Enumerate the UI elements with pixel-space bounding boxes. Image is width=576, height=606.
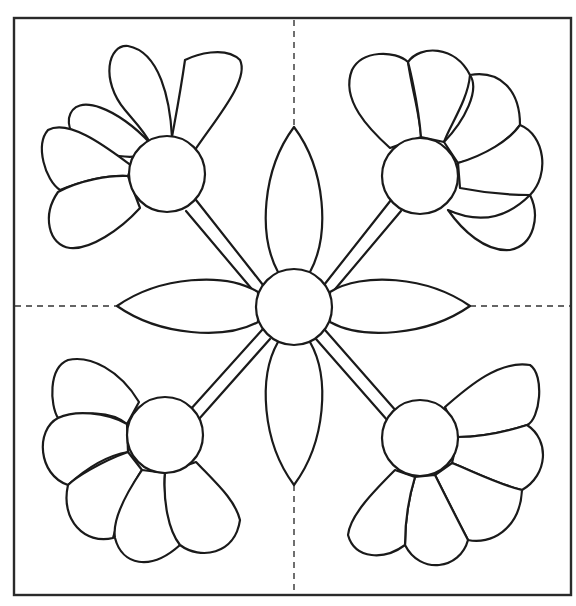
leaf-bottom: [266, 342, 322, 485]
leaf-top: [266, 127, 322, 272]
flower-top-right: [349, 51, 542, 251]
leaf-right: [330, 280, 470, 333]
quilt-block-pattern: [0, 0, 576, 606]
flower-bottom-right: [348, 364, 543, 565]
leaf-left: [117, 280, 258, 333]
flower-bottom-left: [43, 359, 240, 562]
flower-top-left: [42, 46, 242, 248]
center-circle: [256, 269, 332, 345]
